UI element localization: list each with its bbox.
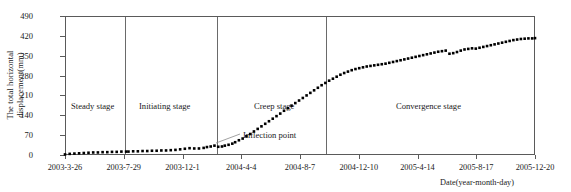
y-axis-title-line1: The total horizontal [5,50,15,119]
x-tick-mark-2004-4-4 [241,155,242,159]
stage-divider-1 [125,17,126,154]
x-tick-label-2005-12-20: 2005-12-20 [507,163,563,172]
x-tick-label-2004-8-7: 2004-8-7 [272,163,328,172]
y-tick-label-490: 490 [3,12,33,20]
stage-label-initiating: Initiating stage [139,101,190,111]
x-tick-mark-2003-7-29 [124,155,125,159]
x-tick-label-2005-4-14: 2005-4-14 [390,163,446,172]
stage-label-convergence: Convergence stage [396,101,461,111]
plot-area [65,16,535,155]
stage-divider-3 [326,17,327,154]
y-axis-title-line2: displacement(mm) [15,52,25,117]
x-tick-mark-2003-3-26 [65,155,66,159]
chart-figure: The total horizontal displacement(mm) 07… [0,0,571,192]
stage-label-steady: Steady stage [71,101,114,111]
x-tick-label-2003-7-29: 2003-7-29 [96,163,152,172]
y-tick-label-140: 140 [3,111,33,119]
x-tick-label-2005-8-17: 2005-8-17 [448,163,504,172]
x-tick-mark-2005-12-20 [535,155,536,159]
y-tick-label-0: 0 [3,151,33,159]
x-tick-label-2004-12-10: 2004-12-10 [331,163,387,172]
y-tick-label-350: 350 [3,52,33,60]
x-tick-mark-2005-8-17 [476,155,477,159]
y-tick-label-210: 210 [3,91,33,99]
inflection-point-label: Inflection point [243,130,296,140]
y-tick-label-420: 420 [3,32,33,40]
x-tick-mark-2003-12-1 [183,155,184,159]
x-tick-label-2003-3-26: 2003-3-26 [37,163,93,172]
x-tick-mark-2004-8-7 [300,155,301,159]
x-tick-mark-2005-4-14 [418,155,419,159]
x-tick-mark-2004-12-10 [359,155,360,159]
y-tick-label-70: 70 [3,131,33,139]
stage-divider-2 [217,17,218,154]
x-axis-title: Date(year-month-day) [440,178,514,187]
x-tick-label-2004-4-4: 2004-4-4 [213,163,269,172]
stage-label-creep: Creep stage [254,101,294,111]
x-tick-label-2003-12-1: 2003-12-1 [155,163,211,172]
y-tick-label-280: 280 [3,72,33,80]
